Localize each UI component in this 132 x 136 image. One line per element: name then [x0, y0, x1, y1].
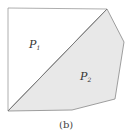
- figure-caption: (b): [59, 119, 73, 130]
- partition-diagram: P1 P2 (b): [0, 0, 132, 136]
